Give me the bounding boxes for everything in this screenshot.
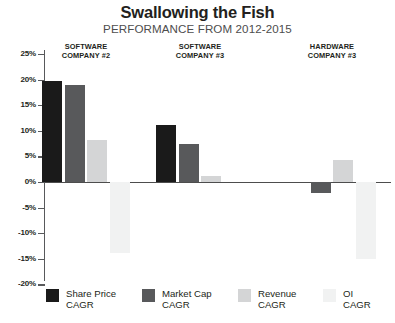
legend-item[interactable]: Market Cap CAGR: [142, 288, 212, 311]
tick-label-text: 5%: [2, 152, 36, 160]
y-axis-tick-label: 15%: [0, 101, 36, 109]
bar: [356, 182, 376, 259]
y-axis-tick-label: -10%: [0, 229, 36, 237]
legend-label: Market Cap CAGR: [162, 288, 212, 311]
bar: [333, 160, 353, 182]
legend-swatch: [142, 289, 155, 302]
y-axis-tick: [38, 208, 45, 209]
y-axis-tick: [38, 259, 45, 260]
y-axis-tick: [38, 233, 45, 234]
group-label-2: SOFTWARECOMPANY #3: [150, 42, 250, 60]
group-label-1: SOFTWARECOMPANY #2: [36, 42, 136, 60]
tick-label-text: -5%: [2, 204, 36, 212]
legend-item[interactable]: OI CAGR: [323, 288, 371, 311]
group-label-line2: COMPANY #3: [176, 51, 224, 60]
group-label-line1: HARDWARE: [310, 42, 354, 51]
y-axis-tick-label: 10%: [0, 127, 36, 135]
legend-label: Revenue CAGR: [258, 288, 296, 311]
chart-header: Swallowing the Fish PERFORMANCE FROM 201…: [0, 3, 395, 36]
y-axis-tick: [38, 182, 45, 183]
tick-label-text: 20%: [2, 76, 36, 84]
chart-legend: Share Price CAGRMarket Cap CAGRRevenue C…: [0, 288, 395, 323]
y-axis-tick-label: 25%: [0, 50, 36, 58]
bar: [65, 85, 85, 182]
bar: [42, 81, 62, 182]
legend-swatch: [323, 289, 336, 302]
tick-label-text: 15%: [2, 101, 36, 109]
bar: [311, 182, 331, 193]
bar: [156, 125, 176, 182]
y-axis-tick-label: 0%: [0, 178, 36, 186]
y-axis-tick: [38, 284, 45, 285]
legend-label: OI CAGR: [343, 288, 371, 311]
page-title: Swallowing the Fish: [0, 3, 395, 21]
group-label-3: HARDWARECOMPANY #3: [282, 42, 382, 60]
y-axis-tick-label: -15%: [0, 255, 36, 263]
bar: [201, 176, 221, 182]
y-axis-tick-label: -5%: [0, 204, 36, 212]
bar: [87, 140, 107, 182]
tick-label-text: 25%: [2, 50, 36, 58]
tick-label-text: -10%: [2, 229, 36, 237]
legend-swatch: [46, 289, 59, 302]
legend-label: Share Price CAGR: [66, 288, 116, 311]
tick-label-text: 10%: [2, 127, 36, 135]
chart-container: Swallowing the Fish PERFORMANCE FROM 201…: [0, 0, 395, 323]
bar: [179, 144, 199, 182]
legend-item[interactable]: Revenue CAGR: [238, 288, 296, 311]
plot-area: 25%20%15%10%5%0%-5%-10%-15%-20% SOFTWARE…: [0, 40, 395, 285]
group-label-line1: SOFTWARE: [65, 42, 108, 51]
y-axis-tick-label: 5%: [0, 152, 36, 160]
group-label-line2: COMPANY #2: [62, 51, 110, 60]
legend-item[interactable]: Share Price CAGR: [46, 288, 116, 311]
group-label-line1: SOFTWARE: [179, 42, 222, 51]
bar: [110, 182, 130, 253]
zero-baseline: [44, 182, 391, 183]
chart-subtitle: PERFORMANCE FROM 2012-2015: [0, 22, 395, 36]
tick-label-text: 0%: [2, 178, 36, 186]
y-axis-tick-label: 20%: [0, 76, 36, 84]
group-label-line2: COMPANY #3: [308, 51, 356, 60]
legend-swatch: [238, 289, 251, 302]
tick-label-text: -15%: [2, 255, 36, 263]
